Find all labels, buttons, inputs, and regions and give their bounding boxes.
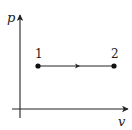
state-label-1: 1 <box>35 47 43 61</box>
x-axis-label: v <box>118 114 126 129</box>
state-label-2: 2 <box>111 47 119 61</box>
state-point-1 <box>35 63 40 68</box>
y-axis-label: p <box>7 10 16 25</box>
pv-diagram: p v 1 2 <box>0 0 132 130</box>
state-point-2 <box>111 63 116 68</box>
